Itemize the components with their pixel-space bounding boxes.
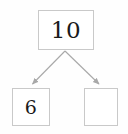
part-box-right[interactable] [84,88,118,126]
number-bond-diagram: 10 6 [0,0,128,134]
whole-box[interactable]: 10 [38,10,94,50]
part-value-right [101,98,102,117]
arrow-to-right-part [65,51,99,84]
part-value-left: 6 [25,98,38,117]
part-box-left[interactable]: 6 [12,88,50,126]
arrow-to-left-part [33,51,66,84]
whole-value: 10 [51,19,81,42]
